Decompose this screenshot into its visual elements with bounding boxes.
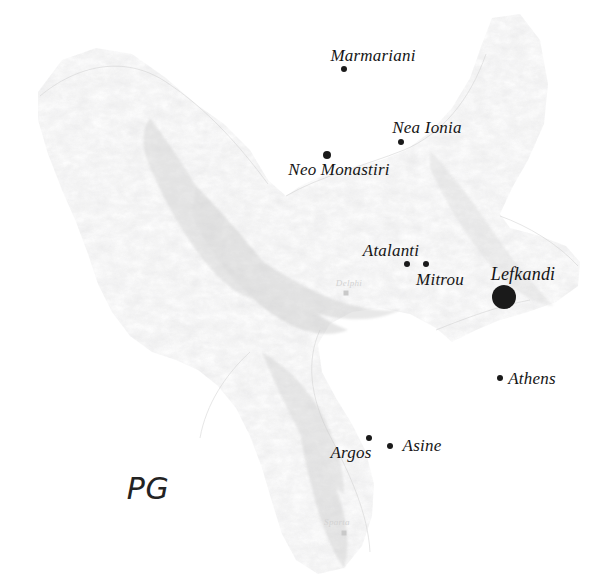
site-label-nea-ionia: Nea Ionia (392, 118, 461, 138)
site-label-mitrou: Mitrou (416, 270, 464, 290)
period-caption-pg: PG (127, 471, 169, 506)
reference-label-delphi: Delphi (336, 278, 362, 288)
site-label-lefkandi: Lefkandi (491, 264, 556, 285)
reference-dot-delphi (344, 291, 349, 296)
site-dot-argos[interactable] (366, 435, 372, 441)
site-dot-atalanti[interactable] (404, 261, 410, 267)
reference-dot-sparta (342, 531, 347, 536)
site-dot-lefkandi[interactable] (492, 285, 516, 309)
mountain-spine (143, 118, 400, 334)
site-label-asine: Asine (403, 436, 442, 456)
site-dot-mitrou[interactable] (423, 261, 429, 267)
site-label-athens: Athens (508, 369, 555, 389)
map-canvas: Delphi Sparta Marmariani Nea Ionia Neo M… (0, 0, 593, 582)
site-dot-marmariani[interactable] (341, 66, 347, 72)
site-label-argos: Argos (331, 443, 372, 463)
site-label-neo-monastiri: Neo Monastiri (288, 160, 389, 180)
site-label-atalanti: Atalanti (363, 241, 419, 261)
site-label-marmariani: Marmariani (330, 46, 415, 66)
site-dot-athens[interactable] (497, 375, 503, 381)
site-dot-neo-monastiri[interactable] (323, 151, 331, 159)
site-dot-nea-ionia[interactable] (398, 139, 404, 145)
reference-label-sparta: Sparta (324, 517, 350, 527)
site-dot-asine[interactable] (387, 443, 393, 449)
